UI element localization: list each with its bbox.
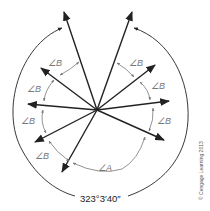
angle-b-label: ∠B xyxy=(27,84,41,94)
angle-b-label: ∠B xyxy=(151,81,165,91)
angle-b-label: ∠B xyxy=(48,58,62,68)
copyright-credit: © Cengage Learning 2013 xyxy=(198,141,204,200)
angle-b-label: ∠B xyxy=(21,116,35,126)
angle-a-label: ∠A xyxy=(98,163,112,173)
arc-b-2 xyxy=(44,80,54,101)
ray-3 xyxy=(28,104,97,110)
traverse-diagram: ∠B ∠B ∠B ∠B ∠B ∠B ∠B ∠A 323°3′40″ © Ceng… xyxy=(0,0,210,211)
ray-9 xyxy=(97,110,164,140)
outer-arc-right xyxy=(128,28,188,196)
ray-6 xyxy=(97,12,132,110)
arc-b-3 xyxy=(42,110,46,133)
arc-b-7 xyxy=(149,108,153,131)
arc-b-1 xyxy=(60,62,79,75)
angle-labels: ∠B ∠B ∠B ∠B ∠B ∠B ∠B ∠A xyxy=(21,58,171,173)
angle-b-label: ∠B xyxy=(157,116,171,126)
arc-b-4 xyxy=(49,141,69,161)
total-angle-label: 323°3′40″ xyxy=(80,193,121,204)
angle-b-label: ∠B xyxy=(129,58,143,68)
arc-b-6 xyxy=(140,82,150,100)
outer-arc-left xyxy=(13,28,75,196)
ray-2 xyxy=(41,68,97,110)
angle-b-label: ∠B xyxy=(35,151,49,161)
angle-arcs xyxy=(42,62,153,171)
ray-1 xyxy=(64,12,97,110)
